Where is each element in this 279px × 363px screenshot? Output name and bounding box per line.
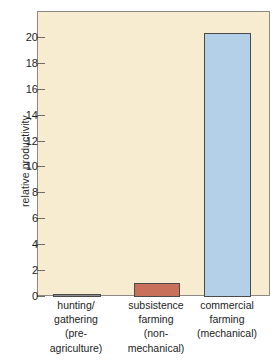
y-axis-tick bbox=[37, 166, 45, 167]
y-axis-tick bbox=[37, 63, 45, 64]
plot-area bbox=[37, 11, 270, 296]
x-axis-category-label-line: mechanical) bbox=[101, 341, 211, 355]
x-axis-category-label-line: (mechanical) bbox=[172, 326, 279, 340]
y-axis-tick bbox=[37, 141, 45, 142]
y-axis-tick-label: 8 bbox=[0, 186, 38, 198]
y-axis-tick-label: 20 bbox=[0, 31, 38, 43]
bars-layer bbox=[38, 12, 269, 295]
bar bbox=[134, 283, 180, 297]
y-axis-tick-label: 6 bbox=[0, 212, 38, 224]
y-axis-tick-label: 18 bbox=[0, 57, 38, 69]
x-axis-category-label: commercialfarming(mechanical) bbox=[172, 298, 279, 341]
y-axis-tick-label: 10 bbox=[0, 160, 38, 172]
y-axis-tick-label: 4 bbox=[0, 238, 38, 250]
y-axis-tick bbox=[37, 89, 45, 90]
x-axis-category-labels: hunting/gathering(pre-agriculture)subsis… bbox=[37, 298, 270, 362]
y-axis-tick bbox=[37, 115, 45, 116]
y-axis-tick-label: 2 bbox=[0, 264, 38, 276]
y-axis-tick bbox=[37, 296, 45, 297]
bar bbox=[204, 33, 251, 297]
y-axis-tick bbox=[37, 244, 45, 245]
y-axis-tick-label: 14 bbox=[0, 109, 38, 121]
y-axis-tick-label: 16 bbox=[0, 83, 38, 95]
x-axis-category-label-line: commercial bbox=[172, 298, 279, 312]
y-axis-tick bbox=[37, 270, 45, 271]
y-axis-tick bbox=[37, 37, 45, 38]
x-axis-category-label-line: farming bbox=[172, 312, 279, 326]
y-axis-tick bbox=[37, 218, 45, 219]
y-axis-tick bbox=[37, 192, 45, 193]
y-axis-tick-label: 12 bbox=[0, 135, 38, 147]
chart-figure: relative productivity 02468101214161820 … bbox=[0, 0, 279, 363]
bar bbox=[53, 294, 101, 297]
